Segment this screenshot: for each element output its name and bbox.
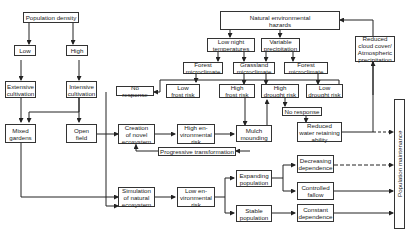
node-high-environmental-risk: High en- vironmental risk	[177, 124, 215, 144]
node-reduced-cloud-cover: Reduced cloud cover/ Atmospheric precipi…	[355, 36, 395, 62]
node-no-response-1: No response	[116, 86, 154, 96]
node-mixed-gardens: Mixed gardens	[5, 124, 36, 143]
node-expanding-population: Expanding population	[236, 170, 272, 187]
node-creation-novel-ecosystem: Creation of novel ecosystem	[118, 124, 155, 144]
node-open-field: Open field	[66, 124, 97, 143]
node-variable-precipitation: Variable precipitation	[261, 38, 300, 52]
node-high-frost-risk: High frost risk	[219, 84, 255, 98]
node-low: Low	[14, 45, 36, 56]
node-no-response-2: No response	[282, 107, 322, 116]
node-natural-hazards: Natural environmental hazards	[220, 11, 340, 30]
node-intensive-cultivation: Intensive cultivation	[66, 81, 97, 98]
node-simulation-natural-ecosystem: Simulation of natural ecosystem	[118, 187, 155, 207]
node-controlled-fallow: Controlled fallow	[297, 182, 334, 200]
node-population-maintenance: Population maintenance	[394, 99, 405, 229]
node-mulch-mounding: Mulch mounding	[236, 125, 272, 142]
node-progressive-transformation: Progressive transformation	[158, 147, 236, 156]
node-population-density: Population density	[23, 12, 79, 23]
node-grassland-microclimate: Grassland microclimate	[233, 62, 275, 74]
node-forest-microclimate-2: Forest microclimate	[284, 62, 328, 74]
node-extensive-cultivation: Extensive cultivation	[5, 81, 36, 98]
node-forest-microclimate-1: Forest microclimate	[183, 62, 223, 74]
node-high: High	[66, 45, 88, 56]
node-low-drought-risk: Low drought risk	[306, 84, 343, 98]
node-high-drought-risk: High drought risk	[261, 84, 299, 98]
node-low-environmental-risk: Low en- vironmental risk	[177, 187, 215, 207]
node-constant-dependence: Constant dependence	[297, 204, 334, 222]
node-low-night-temperatures: Low night temperatures	[207, 38, 255, 52]
node-decreasing-dependence: Decreasing dependence	[297, 155, 334, 173]
node-stable-population: Stable population	[236, 205, 272, 222]
node-low-frost-risk: Low frost risk	[166, 84, 200, 98]
node-reduced-water-retaining: Reduced water retaining ability	[297, 122, 342, 142]
